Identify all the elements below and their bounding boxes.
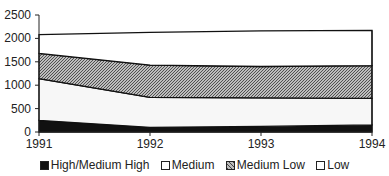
x-tick-label: 1994	[359, 137, 386, 151]
plot-area	[39, 30, 372, 132]
swatch-medium-icon	[161, 161, 170, 170]
y-tick-label: 1500	[4, 55, 31, 69]
x-tick-label: 1993	[248, 137, 275, 151]
y-tick-label: 2000	[4, 31, 31, 45]
y-tick-label: 2500	[4, 8, 31, 22]
x-tick-label: 1991	[26, 137, 53, 151]
y-tick-label: 1000	[4, 78, 31, 92]
x-tick-label: 1992	[137, 137, 164, 151]
y-tick-label: 500	[11, 102, 31, 116]
swatch-high-icon	[40, 161, 49, 170]
swatch-medium-low-icon	[226, 161, 235, 170]
swatch-low-icon	[316, 161, 325, 170]
stacked-area-chart: 050010001500200025001991199219931994	[0, 0, 389, 158]
legend-item-low: Low	[316, 158, 349, 172]
legend: High/Medium High Medium Medium Low Low	[0, 158, 389, 173]
legend-item-medium: Medium	[161, 158, 215, 172]
legend-item-medium-low: Medium Low	[226, 158, 305, 172]
legend-item-high: High/Medium High	[40, 158, 150, 172]
